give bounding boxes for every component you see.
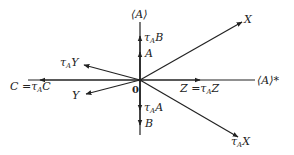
label-C: C =τAC xyxy=(10,80,51,94)
vector-tauA-Y xyxy=(84,65,140,80)
label-Z: Z =τAZ xyxy=(179,82,220,96)
origin-dot xyxy=(138,78,141,81)
label-B: B xyxy=(144,117,153,130)
origin-label: 0 xyxy=(132,84,139,95)
label-X: X xyxy=(243,13,253,26)
horizontal-axis-label: ⟨A⟩* xyxy=(257,74,280,87)
label-Y: Y xyxy=(72,89,81,102)
label-tauA-X: τAX xyxy=(231,135,251,149)
label-tauA-A: τAA xyxy=(144,101,163,115)
label-tauA-Y: τAY xyxy=(60,56,80,70)
label-A: A xyxy=(144,47,153,60)
label-tauA-B: τAB xyxy=(144,31,163,45)
vertical-axis-label: ⟨A⟩ xyxy=(131,8,148,21)
vector-diagram: ⟨A⟩ ⟨A⟩* 0 X τAX τAY Y C =τAC Z =τAZ τAB… xyxy=(0,0,294,155)
